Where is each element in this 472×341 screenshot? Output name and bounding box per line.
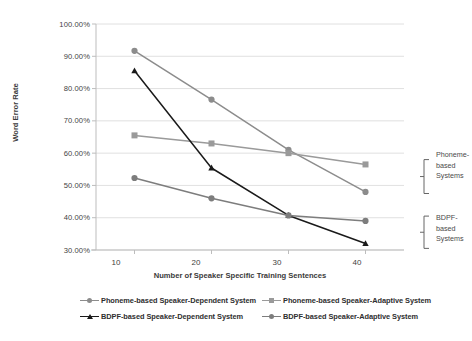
- data-point-square: [132, 132, 138, 138]
- data-point-square: [363, 161, 369, 167]
- data-point-circle: [362, 189, 368, 195]
- bracket-phoneme-based-systems: [420, 160, 429, 194]
- chart-figure: 100.00% 90.00% 80.00% 70.00% 60.00% 50.0…: [0, 0, 472, 341]
- series-line: [135, 178, 366, 221]
- series-line: [135, 135, 366, 164]
- series-1: [132, 132, 369, 167]
- legend-marker-circle-icon: [80, 296, 99, 305]
- data-point-square: [286, 150, 292, 156]
- legend-item-bdpf-speaker-dependent[interactable]: BDPF-based Speaker-Dependent System: [80, 312, 243, 321]
- plot-area: 100.00% 90.00% 80.00% 70.00% 60.00% 50.0…: [0, 0, 472, 290]
- data-point-circle: [285, 212, 291, 218]
- bracket-shape: [424, 160, 429, 194]
- bracket-bdpf-based-systems: [420, 216, 429, 248]
- data-point-circle: [362, 218, 368, 224]
- chart-legend: Phoneme-based Speaker-Dependent System P…: [0, 292, 472, 341]
- data-point-circle: [131, 48, 137, 54]
- legend-item-phoneme-speaker-dependent[interactable]: Phoneme-based Speaker-Dependent System: [80, 296, 256, 305]
- bracket-annotations: [420, 160, 429, 249]
- data-point-circle: [208, 195, 214, 201]
- series-layer: [131, 48, 368, 246]
- series-3: [131, 175, 368, 224]
- legend-item-bdpf-speaker-adaptive[interactable]: BDPF-based Speaker-Adaptive System: [262, 312, 418, 321]
- legend-marker-square-icon: [262, 296, 281, 305]
- series-line: [135, 51, 366, 192]
- data-point-circle: [131, 175, 137, 181]
- legend-label: BDPF-based Speaker-Adaptive System: [283, 312, 418, 321]
- legend-label: Phoneme-based Speaker-Adaptive System: [283, 296, 431, 305]
- legend-label: Phoneme-based Speaker-Dependent System: [101, 296, 256, 305]
- data-point-triangle: [131, 67, 137, 73]
- bracket-shape: [424, 216, 429, 248]
- series-0: [131, 48, 368, 195]
- legend-label: BDPF-based Speaker-Dependent System: [101, 312, 243, 321]
- data-point-circle: [208, 96, 214, 102]
- legend-marker-circle-icon: [262, 312, 281, 321]
- legend-marker-triangle-icon: [80, 312, 99, 321]
- chart-canvas: [0, 0, 472, 290]
- axis-lines: [91, 24, 404, 254]
- gridlines: [96, 24, 404, 250]
- data-point-square: [209, 140, 215, 146]
- legend-item-phoneme-speaker-adaptive[interactable]: Phoneme-based Speaker-Adaptive System: [262, 296, 431, 305]
